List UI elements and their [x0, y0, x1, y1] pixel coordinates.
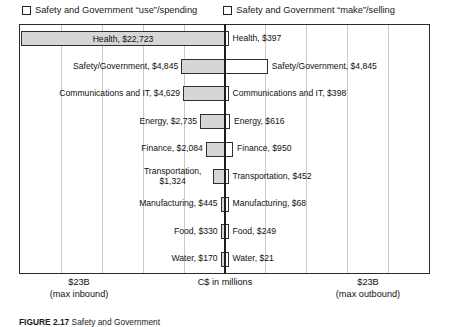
bar-right-label: Health, $397 — [229, 34, 282, 44]
bar-left-energy — [200, 114, 224, 129]
figure-caption: FIGURE 2.17 Safety and Government — [19, 317, 439, 327]
axis-label-center: C$ in millions — [164, 277, 286, 289]
axis-right-max-sub: (max outbound) — [306, 289, 430, 301]
row-left-side: Energy, $2,735 — [20, 108, 225, 136]
row-left-side: Transportation, $1,324 — [20, 163, 225, 191]
bar-left-health: Health, $22,723 — [21, 31, 224, 46]
axis-left-max-sub: (max inbound) — [19, 289, 139, 301]
bar-left-label: Finance, $2,084 — [141, 144, 206, 154]
row-right-side: Water, $21 — [225, 246, 430, 274]
row-right-side: Communications and IT, $398 — [225, 80, 430, 108]
bar-right-safety-government — [225, 59, 268, 74]
axis-left-max: $23B — [68, 277, 89, 287]
row-right-side: Food, $249 — [225, 218, 430, 246]
axis-label-right: $23B (max outbound) — [306, 277, 430, 300]
bar-left-label: Food, $330 — [174, 227, 220, 237]
row-right-side: Finance, $950 — [225, 135, 430, 163]
bar-left-label: Health, $22,723 — [22, 34, 223, 44]
bar-left-label: Energy, $2,735 — [139, 117, 200, 127]
row-left-side: Manufacturing, $445 — [20, 190, 225, 218]
bar-right-label: Energy, $616 — [230, 117, 284, 127]
bar-left-label: Safety/Government, $4,845 — [73, 62, 181, 72]
axis-label-left: $23B (max inbound) — [19, 277, 139, 300]
row-left-side: Water, $170 — [20, 246, 225, 274]
axis-right-max: $23B — [357, 277, 378, 287]
bar-right-label: Water, $21 — [229, 254, 274, 264]
bar-left-label: Transportation, $1,324 — [136, 167, 213, 186]
bar-right-label: Safety/Government, $4,845 — [268, 62, 377, 72]
row-right-side: Health, $397 — [225, 25, 430, 53]
bar-right-label: Transportation, $452 — [229, 172, 312, 182]
row-left-side: Food, $330 — [20, 218, 225, 246]
center-axis-line — [224, 24, 226, 274]
bar-left-finance — [206, 142, 225, 157]
bar-left-label: Communications and IT, $4,629 — [59, 89, 183, 99]
row-left-side: Communications and IT, $4,629 — [20, 80, 225, 108]
legend-item-make: Safety and Government “make”/selling — [223, 5, 395, 15]
checkbox-empty-icon — [223, 6, 232, 15]
axis-labels: $23B (max inbound) C$ in millions $23B (… — [19, 277, 430, 309]
row-right-side: Energy, $616 — [225, 108, 430, 136]
bar-left-label: Manufacturing, $445 — [139, 199, 220, 209]
figure-caption-text: Safety and Government — [72, 317, 160, 327]
chart-legend: Safety and Government “use”/spending Saf… — [0, 2, 449, 18]
axis-center-title: C$ in millions — [198, 277, 253, 287]
bar-left-safety-government — [181, 59, 224, 74]
bar-right-label: Food, $249 — [229, 227, 276, 237]
figure-number: FIGURE 2.17 — [19, 317, 69, 327]
bar-right-label: Finance, $950 — [233, 144, 291, 154]
row-right-side: Safety/Government, $4,845 — [225, 53, 430, 81]
row-left-side: Finance, $2,084 — [20, 135, 225, 163]
legend-item-use: Safety and Government “use”/spending — [22, 5, 197, 15]
bar-right-label: Communications and IT, $398 — [229, 89, 347, 99]
row-right-side: Transportation, $452 — [225, 163, 430, 191]
bar-left-communications-and-it — [183, 86, 224, 101]
legend-label-use: Safety and Government “use”/spending — [35, 5, 197, 15]
bar-left-label: Water, $170 — [171, 254, 220, 264]
legend-label-make: Safety and Government “make”/selling — [236, 5, 395, 15]
bar-right-finance — [225, 142, 233, 157]
row-left-side: Health, $22,723 — [20, 25, 225, 53]
checkbox-empty-icon — [22, 6, 31, 15]
row-left-side: Safety/Government, $4,845 — [20, 53, 225, 81]
bar-right-label: Manufacturing, $68 — [229, 199, 307, 209]
chart-plot-area: Health, $22,723Health, $397Safety/Govern… — [19, 24, 430, 274]
row-right-side: Manufacturing, $68 — [225, 190, 430, 218]
